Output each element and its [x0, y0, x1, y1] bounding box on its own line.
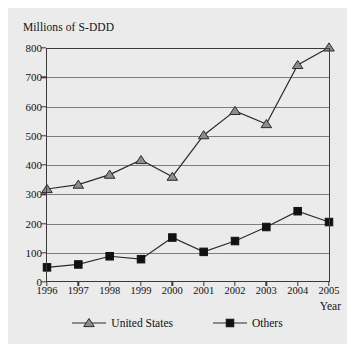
y-axis-tick-mark: [41, 106, 46, 107]
data-point-marker: [230, 106, 241, 114]
data-point-marker: [292, 60, 303, 68]
data-point-marker: [104, 170, 115, 178]
triangle-marker-icon: [72, 316, 106, 330]
data-point-marker: [200, 248, 208, 256]
data-point-marker: [106, 253, 114, 261]
y-axis-tick-mark: [41, 77, 46, 78]
chart-legend: United StatesOthers: [0, 316, 355, 330]
x-axis-tick-label: 2001: [193, 285, 214, 296]
series-others: [43, 207, 333, 271]
y-axis-tick-mark: [41, 164, 46, 165]
x-axis-tick-label: 1999: [131, 285, 152, 296]
x-axis-tick-label: 2003: [256, 285, 277, 296]
data-point-marker: [169, 234, 177, 242]
data-point-marker: [325, 218, 333, 226]
y-axis-tick-label: 500: [26, 130, 43, 142]
series-united-states: [42, 43, 335, 193]
data-point-marker: [231, 237, 239, 245]
y-axis-tick-label: 400: [26, 159, 43, 171]
x-axis-tick-label: 2002: [225, 285, 246, 296]
legend-label: Others: [252, 317, 283, 329]
data-point-marker: [73, 180, 84, 188]
x-axis-tick-label: 2000: [162, 285, 183, 296]
y-axis-tick-labels: 0100200300400500600700800: [14, 48, 42, 282]
data-point-marker: [75, 261, 83, 269]
y-axis-tick-mark: [41, 252, 46, 253]
y-axis-tick-label: 200: [26, 218, 43, 230]
series-line: [47, 211, 329, 267]
y-axis-title: Millions of S-DDD: [23, 21, 114, 33]
x-axis-title: Year: [320, 300, 341, 312]
y-axis-tick-mark: [41, 223, 46, 224]
data-point-marker: [137, 255, 145, 263]
legend-item: Others: [213, 316, 283, 330]
y-axis-tick-label: 100: [26, 247, 43, 259]
y-axis-tick-mark: [41, 194, 46, 195]
x-axis-tick-label: 2005: [319, 285, 340, 296]
data-point-marker: [167, 172, 178, 180]
legend-item: United States: [72, 316, 173, 330]
x-axis-tick-label: 2004: [287, 285, 308, 296]
data-point-marker: [263, 223, 271, 231]
legend-label: United States: [111, 317, 173, 329]
y-axis-tick-marks: [41, 48, 47, 282]
data-point-marker: [294, 207, 302, 215]
y-axis-tick-label: 600: [26, 101, 43, 113]
chart-container: Millions of S-DDD 0100200300400500600700…: [0, 0, 355, 352]
y-axis-tick-mark: [41, 47, 46, 48]
data-point-marker: [136, 155, 147, 163]
y-axis-tick-label: 300: [26, 188, 43, 200]
x-axis-tick-label: 1997: [68, 285, 89, 296]
x-axis-tick-label: 1996: [37, 285, 58, 296]
y-axis-tick-label: 800: [26, 42, 43, 54]
data-point-marker: [261, 120, 272, 128]
plot-area: [46, 48, 330, 282]
square-marker-icon: [213, 316, 247, 330]
y-axis-tick-label: 700: [26, 71, 43, 83]
series-layer: [46, 48, 330, 282]
x-axis-tick-labels: 1996199719981999200020012002200320042005: [46, 285, 330, 301]
y-axis-tick-mark: [41, 135, 46, 136]
x-axis-tick-label: 1998: [99, 285, 120, 296]
series-line: [47, 47, 329, 189]
